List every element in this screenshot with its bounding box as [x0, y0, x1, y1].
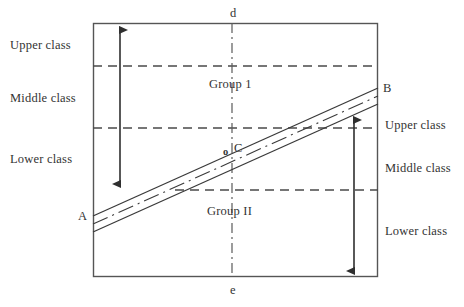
label-upper-class-left: Upper class: [10, 38, 71, 53]
label-point-o: o: [223, 146, 228, 157]
diagram-canvas: Upper class Middle class Lower class Upp…: [0, 0, 464, 307]
label-upper-class-right: Upper class: [385, 118, 446, 133]
label-axis-top-d: d: [230, 6, 236, 21]
label-point-a: A: [78, 209, 87, 224]
label-group-1: Group 1: [209, 77, 252, 92]
label-axis-bottom-e: e: [230, 283, 236, 298]
label-middle-class-left: Middle class: [10, 91, 76, 106]
label-group-2: Group II: [207, 204, 252, 219]
label-middle-class-right: Middle class: [385, 161, 451, 176]
label-point-b: B: [383, 81, 392, 96]
label-point-c: C: [234, 141, 243, 156]
label-lower-class-left: Lower class: [10, 152, 72, 167]
label-lower-class-right: Lower class: [385, 224, 447, 239]
